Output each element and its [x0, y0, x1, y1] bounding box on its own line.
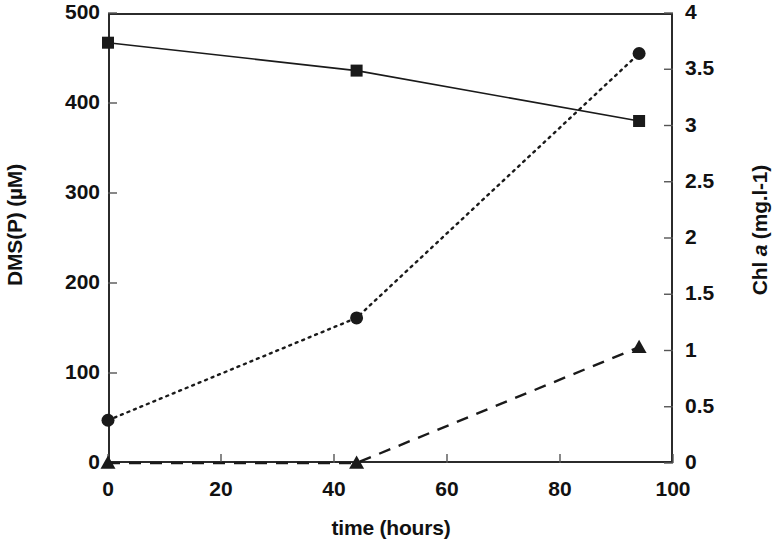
data-point-circle: [633, 47, 646, 60]
series-line-circle: [108, 54, 639, 421]
y-tick-label-right: 3: [685, 113, 755, 137]
x-axis-title: time (hours): [108, 516, 674, 540]
x-tick-label: 40: [299, 477, 369, 501]
y-tick-label-right: 1.5: [685, 281, 755, 305]
series-chl-a: [102, 47, 646, 427]
y-tick-label-right: 0.5: [685, 394, 755, 418]
data-point-circle: [102, 414, 115, 427]
y-tick-label-left: 200: [30, 270, 100, 294]
x-tick-label: 60: [412, 477, 482, 501]
data-point-triangle: [349, 456, 364, 469]
y-tick-label-right: 2.5: [685, 169, 755, 193]
series-line-triangle: [108, 347, 639, 463]
y-tick-label-right: 1: [685, 338, 755, 362]
x-tick-label: 100: [638, 477, 708, 501]
y-tick-label-left: 100: [30, 360, 100, 384]
series-dms: [101, 340, 647, 469]
y-tick-label-left: 300: [30, 180, 100, 204]
series-line-square: [108, 43, 639, 121]
data-point-square: [102, 37, 114, 49]
data-series-layer: [108, 13, 673, 463]
y-tick-label-left: 500: [30, 0, 100, 24]
y-tick-label-right: 3.5: [685, 56, 755, 80]
data-point-square: [633, 115, 645, 127]
y-tick-label-right: 2: [685, 225, 755, 249]
y-tick-label-left: 0: [30, 450, 100, 474]
data-point-square: [351, 65, 363, 77]
y-axis-left-title: DMS(P) (µM): [0, 0, 30, 450]
x-tick-label: 80: [525, 477, 595, 501]
y-tick-label-left: 400: [30, 90, 100, 114]
series-dms-p-: [102, 37, 645, 127]
data-point-triangle: [632, 340, 647, 353]
plot-area: [108, 13, 673, 463]
x-tick-label: 20: [186, 477, 256, 501]
chart-figure: DMS(P) (µM) Chl a (mg.l-1) time (hours) …: [0, 0, 783, 554]
y-tick-label-right: 0: [685, 450, 755, 474]
data-point-circle: [350, 311, 363, 324]
x-tick-label: 0: [73, 477, 143, 501]
y-tick-label-right: 4: [685, 0, 755, 24]
